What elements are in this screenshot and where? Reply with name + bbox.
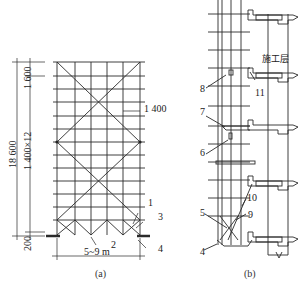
dim-bay-spacing: 1 400 bbox=[144, 104, 167, 114]
figure-a-frame bbox=[53, 62, 145, 235]
dim-lifts: 1 400×12 bbox=[23, 132, 33, 170]
callout-b-5: 5 bbox=[200, 208, 205, 218]
callout-b-10: 10 bbox=[247, 193, 257, 203]
callout-a-4: 4 bbox=[158, 244, 163, 254]
callout-a-3: 3 bbox=[158, 212, 163, 222]
caption-b: (b) bbox=[244, 268, 256, 279]
callout-b-11: 11 bbox=[255, 88, 265, 98]
callout-b-4: 4 bbox=[200, 247, 205, 257]
scaffold-diagram bbox=[0, 0, 301, 287]
callout-b-6: 6 bbox=[200, 148, 205, 158]
callout-a-2: 2 bbox=[111, 240, 116, 250]
dim-total-height: 18 600 bbox=[8, 141, 18, 169]
dim-base: 200 bbox=[23, 236, 33, 251]
callout-b-7: 7 bbox=[200, 107, 205, 117]
callout-b-8: 8 bbox=[200, 84, 205, 94]
caption-a: (a) bbox=[95, 268, 106, 279]
callout-b-9: 9 bbox=[248, 210, 253, 220]
callout-a-1: 1 bbox=[148, 198, 153, 208]
working-floor-label: 施工层 bbox=[262, 55, 289, 64]
dim-width: 5~9 m bbox=[84, 247, 110, 257]
dim-top-lift: 1 600 bbox=[23, 67, 33, 90]
